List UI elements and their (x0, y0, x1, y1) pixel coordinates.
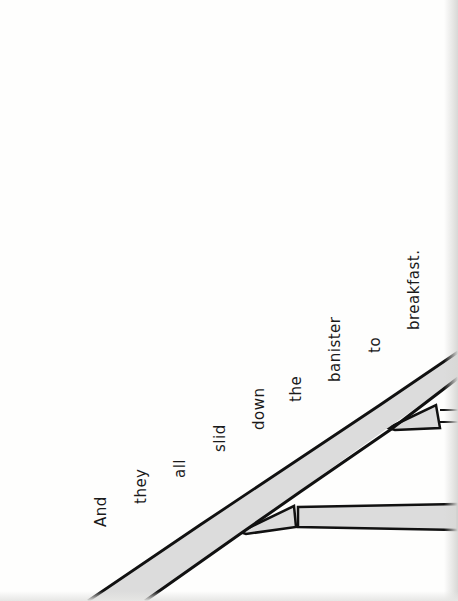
baluster-post-lower (298, 504, 458, 530)
story-word: breakfast. (405, 250, 423, 330)
banister-illustration (0, 0, 458, 601)
page-bottom-shadow (0, 591, 458, 601)
story-word: down (250, 388, 268, 430)
book-page: And they all slid down the banister to b… (0, 0, 458, 601)
story-word: they (132, 469, 150, 505)
story-word: to (366, 337, 384, 353)
story-word: all (171, 459, 189, 478)
story-word: the (287, 376, 305, 402)
page-gutter-shadow (444, 0, 458, 601)
story-word: slid (211, 424, 229, 452)
story-word: banister (326, 317, 344, 382)
story-word: And (92, 496, 110, 527)
